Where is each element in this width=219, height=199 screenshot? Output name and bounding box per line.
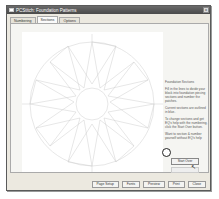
tab-sections[interactable]: Sections xyxy=(37,16,59,23)
callout-circle xyxy=(162,148,171,157)
close-button[interactable]: Close xyxy=(188,181,206,188)
footer-buttons: Page Setup Fonts Preview Print Close xyxy=(7,181,210,188)
close-icon[interactable]: x xyxy=(203,7,209,13)
window-title: PCStitch: Foundation Patterns xyxy=(16,8,203,13)
foundation-patterns-window: PCStitch: Foundation Patterns x Numberin… xyxy=(6,5,211,191)
preview-button[interactable]: Preview xyxy=(143,181,165,188)
title-bar[interactable]: PCStitch: Foundation Patterns x xyxy=(7,6,210,14)
sections-panel: Foundation Sections Fill in the lines to… xyxy=(10,23,209,173)
app-icon xyxy=(9,8,14,12)
fonts-button[interactable]: Fonts xyxy=(122,181,140,188)
instructions-text-2: Current sections are outlined in blue. xyxy=(165,106,209,114)
instructions-text-3: To change sections and get EQ's help wit… xyxy=(165,117,209,129)
pattern-canvas[interactable] xyxy=(22,32,163,172)
star-pattern-drawing xyxy=(22,32,163,172)
mouse-cursor-icon: ↖ xyxy=(191,163,196,170)
page-setup-button[interactable]: Page Setup xyxy=(92,181,119,188)
instructions-panel: Foundation Sections Fill in the lines to… xyxy=(165,80,209,143)
instructions-text-1: Fill in the lines to divide your block i… xyxy=(165,87,209,103)
highlight-text: Want to section & number yourself withou… xyxy=(165,132,209,140)
instructions-heading: Foundation Sections xyxy=(165,80,209,84)
print-button[interactable]: Print xyxy=(168,181,185,188)
